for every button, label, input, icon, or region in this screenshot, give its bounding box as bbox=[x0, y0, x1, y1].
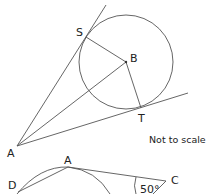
label-c: C bbox=[171, 174, 179, 187]
line-da bbox=[18, 167, 68, 192]
radius-bs bbox=[86, 37, 126, 62]
geometry-diagram: S B T A Not to scale A C D 50° bbox=[0, 0, 213, 194]
label-a2: A bbox=[64, 154, 72, 167]
label-b: B bbox=[130, 52, 138, 65]
radius-bt bbox=[126, 62, 141, 108]
not-to-scale-note: Not to scale bbox=[149, 134, 206, 145]
label-d: D bbox=[8, 179, 16, 192]
figure-1: S B T A Not to scale bbox=[7, 5, 206, 160]
angle-arc-c bbox=[135, 177, 137, 194]
angle-label-50: 50° bbox=[140, 183, 160, 194]
figure-2: A C D 50° bbox=[8, 154, 179, 194]
label-a: A bbox=[7, 147, 15, 160]
label-t: T bbox=[137, 112, 145, 125]
label-s: S bbox=[76, 26, 83, 39]
line-ac bbox=[68, 167, 166, 181]
tangent-as bbox=[17, 5, 106, 146]
line-ab bbox=[17, 62, 126, 146]
centre-point-b bbox=[125, 61, 127, 63]
